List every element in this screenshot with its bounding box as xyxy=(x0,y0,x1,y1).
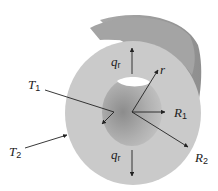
label-T2: T2 xyxy=(9,144,21,160)
label-R2: R2 xyxy=(194,150,208,166)
T2-arrow xyxy=(25,135,67,148)
hollow-cylinder-diagram: qr qr r R1 R2 T1 T2 xyxy=(0,0,218,191)
label-T1: T1 xyxy=(28,77,40,93)
